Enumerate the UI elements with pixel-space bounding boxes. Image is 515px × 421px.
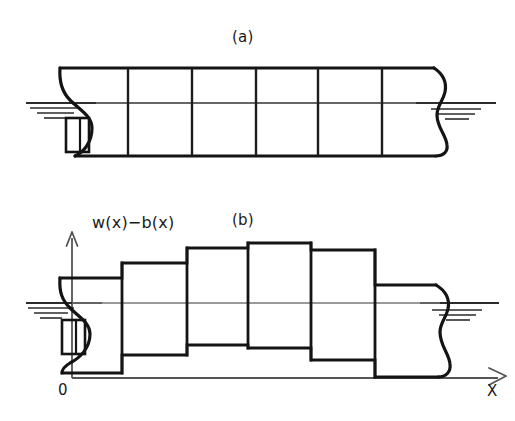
waterline-hatch-right-b — [432, 310, 482, 320]
stern-profile-b — [436, 285, 450, 377]
bulbous-bow-box-b — [62, 320, 85, 354]
stepped-hull-bottom-b — [62, 345, 438, 377]
station-lines-a — [128, 68, 382, 156]
waterline-hatch-left-b — [28, 308, 74, 318]
panel-a-group — [26, 68, 496, 156]
figure-root: (a) (b) w(x)−b(x) 0 X — [0, 0, 515, 421]
y-axis-label: w(x)−b(x) — [92, 213, 174, 232]
figure-canvas — [0, 0, 515, 421]
x-axis-label: X — [487, 382, 497, 400]
stern-profile-a — [434, 68, 447, 156]
origin-label: 0 — [58, 381, 68, 399]
panel-a-caption: (a) — [232, 28, 254, 46]
bow-profile-a — [60, 68, 92, 156]
stepped-hull-b — [60, 243, 438, 377]
waterline-hatch-left-a — [30, 108, 80, 118]
panel-b-caption: (b) — [232, 211, 254, 229]
panel-b-group — [26, 232, 506, 385]
